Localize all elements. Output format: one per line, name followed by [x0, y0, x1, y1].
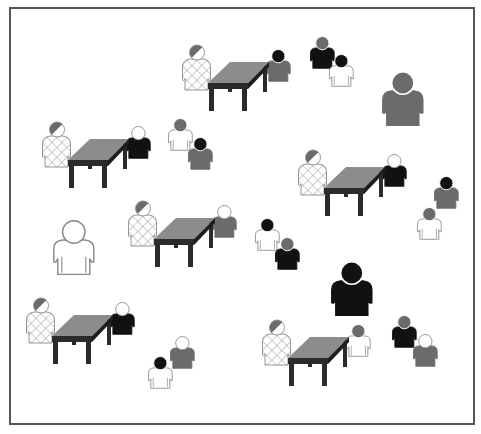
scene-canvas	[0, 0, 481, 434]
table-apron	[52, 336, 92, 342]
crosshatch-shirt	[299, 164, 327, 195]
table-leg	[289, 364, 294, 386]
crosshatch-shirt	[183, 59, 211, 90]
person-body	[110, 314, 134, 334]
person-head	[132, 126, 145, 139]
table-leg	[86, 342, 91, 364]
person-body	[382, 166, 406, 186]
person-body	[310, 48, 334, 68]
table-leg	[155, 245, 160, 267]
person-head	[218, 205, 231, 218]
person-head	[335, 54, 348, 67]
person-body	[275, 249, 299, 269]
person-head	[423, 207, 436, 220]
person-body	[126, 138, 150, 158]
person-body	[413, 346, 437, 366]
person-body	[383, 91, 423, 125]
person-body	[266, 61, 290, 81]
table-leg	[102, 166, 107, 188]
person-body	[346, 336, 370, 356]
table-leg	[53, 342, 58, 364]
person-head	[116, 302, 129, 315]
table-apron	[68, 160, 108, 166]
person-head	[440, 176, 453, 189]
person-body	[392, 327, 416, 347]
person-body	[168, 130, 192, 150]
person-body	[434, 188, 458, 208]
table-apron	[324, 188, 364, 194]
person-head	[176, 336, 189, 349]
person-head	[194, 137, 207, 150]
person-body	[417, 219, 441, 239]
person-head	[316, 36, 329, 49]
table-leg	[322, 364, 327, 386]
table-apron	[208, 83, 248, 89]
person-body	[255, 230, 279, 250]
table-apron	[154, 239, 194, 245]
person-head	[261, 218, 274, 231]
person-head	[419, 334, 432, 347]
person-head	[63, 221, 85, 243]
person-head	[388, 154, 401, 167]
person-head	[392, 72, 414, 94]
table-leg	[242, 89, 247, 111]
crosshatch-shirt	[129, 215, 157, 246]
person-head	[154, 356, 167, 369]
person-body	[332, 281, 372, 315]
person-body	[170, 348, 194, 368]
person-head	[341, 262, 363, 284]
person-head	[174, 118, 187, 131]
table-leg	[358, 194, 363, 216]
table-leg	[209, 89, 214, 111]
table-apron	[288, 358, 328, 364]
crosshatch-shirt	[43, 136, 71, 167]
person-body	[329, 66, 353, 86]
person-head	[281, 237, 294, 250]
person-head	[272, 49, 285, 62]
crosshatch-shirt	[263, 334, 291, 365]
person-body	[212, 217, 236, 237]
person-head	[352, 324, 365, 337]
person-body	[188, 149, 212, 169]
table-leg	[325, 194, 330, 216]
crosshatch-shirt	[27, 312, 55, 343]
person-body	[148, 368, 172, 388]
person-body	[54, 240, 94, 274]
table-leg	[69, 166, 74, 188]
table-leg	[188, 245, 193, 267]
person-head	[398, 315, 411, 328]
